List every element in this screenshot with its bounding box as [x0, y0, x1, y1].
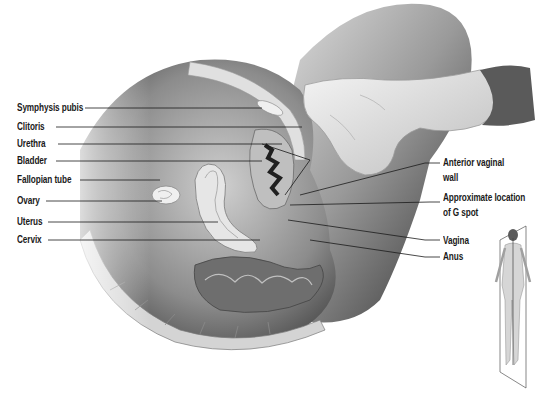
label-clitoris: Clitoris	[17, 120, 45, 134]
label-cervix: Cervix	[17, 233, 42, 247]
label-anterior-vaginal-wall-line1: Anterior vaginal	[443, 156, 504, 170]
label-uterus: Uterus	[17, 215, 42, 229]
label-bladder: Bladder	[17, 154, 47, 168]
label-g-spot-line2: of G spot	[443, 206, 478, 220]
label-vagina: Vagina	[443, 234, 469, 248]
label-fallopian-tube: Fallopian tube	[17, 173, 71, 187]
label-g-spot-line1: Approximate location	[443, 191, 525, 205]
label-ovary: Ovary	[17, 194, 40, 208]
label-anus: Anus	[443, 250, 463, 264]
inset-figure	[496, 226, 530, 388]
label-urethra: Urethra	[17, 137, 46, 151]
label-anterior-vaginal-wall-line2: wall	[443, 171, 458, 185]
label-symphysis-pubis: Symphysis pubis	[17, 101, 83, 115]
anatomical-diagram: Symphysis pubis Clitoris Urethra Bladder…	[0, 0, 548, 395]
